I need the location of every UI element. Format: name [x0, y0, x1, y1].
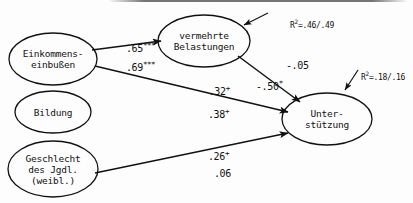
coefficient-label-050: -.50* — [233, 68, 283, 103]
coefficient-value: .38 — [208, 109, 225, 120]
significance-marker: + — [225, 107, 229, 116]
significance-marker: + — [226, 84, 230, 93]
node-ellipse-einkommen[interactable] — [9, 33, 97, 85]
coefficient-value: .06 — [214, 168, 231, 179]
significance-marker: *** — [143, 60, 155, 69]
node-ellipse-unterstuetzung[interactable] — [282, 93, 372, 145]
rsq-pointer-belastungen-icon — [244, 13, 268, 25]
significance-marker: * — [279, 79, 283, 88]
rsq-value: =.46/.49 — [298, 21, 334, 30]
coefficient-value: -.05 — [286, 60, 309, 71]
rsq-label-unterstuetzung: R2=.18/.16 — [343, 61, 405, 91]
coefficient-value: .69 — [126, 62, 143, 73]
node-ellipse-geschlecht[interactable] — [8, 141, 98, 197]
rsq-label-belastungen: R2=.46/.49 — [272, 9, 334, 39]
node-ellipse-bildung[interactable] — [15, 91, 91, 133]
rsq-value: =.18/.16 — [369, 73, 405, 82]
coefficient-label-006: .06 — [191, 155, 231, 190]
coefficient-label-069: .69*** — [103, 49, 155, 84]
node-ellipse-belastungen[interactable] — [158, 15, 250, 67]
coefficient-value: -.50 — [256, 81, 279, 92]
path-diagram-canvas: Einkommens- einbußen Bildung Geschlecht … — [0, 0, 413, 203]
coefficient-label-038: .38+ — [185, 96, 229, 131]
